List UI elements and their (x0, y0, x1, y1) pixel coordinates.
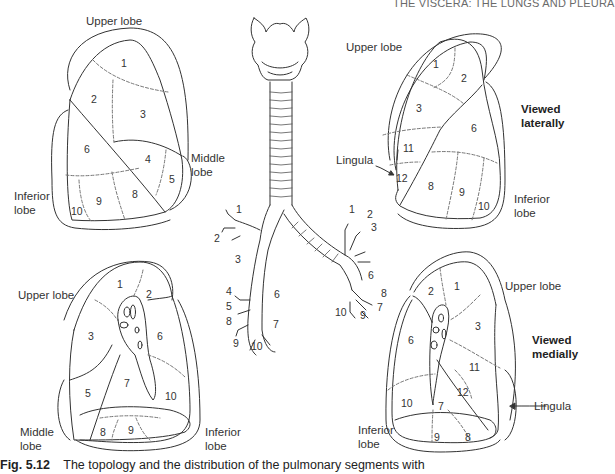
bronchus-r9: 9 (233, 337, 239, 349)
segment-11: 11 (403, 142, 414, 154)
figure-number: Fig. 5.12 (0, 458, 50, 472)
segment-6: 6 (84, 143, 90, 155)
inferior-lobe-label-ll-medial: Inferior lobe (358, 423, 394, 451)
bronchus-r1: 1 (236, 203, 242, 215)
bronchus-r8: 8 (226, 315, 232, 327)
segment-3: 3 (475, 320, 481, 332)
upper-lobe-label-ll-lateral: Upper lobe (346, 40, 402, 54)
segment-2: 2 (461, 72, 467, 84)
segment-12: 12 (396, 172, 408, 184)
inferior-lobe-label-ll-lateral: Inferior lobe (514, 192, 550, 220)
segment-6: 6 (157, 330, 163, 342)
right-lung-medial-drawing (58, 261, 200, 450)
segment-11: 11 (469, 361, 480, 373)
figure-caption-text: The topology and the distribution of the… (63, 458, 424, 472)
segment-1: 1 (121, 57, 127, 69)
segment-3: 3 (140, 108, 146, 120)
segment-9: 9 (96, 195, 102, 207)
bronchial-tree-drawing (222, 18, 372, 355)
figure-caption: Fig. 5.12 The topology and the distribut… (0, 458, 425, 472)
viewed-medially-label: Viewed medially (532, 333, 578, 361)
bronchus-l1: 1 (349, 203, 355, 215)
inferior-lobe-label-rl-lateral: Inferior lobe (14, 189, 50, 217)
segment-9: 9 (434, 431, 440, 443)
bronchus-r4: 4 (226, 285, 232, 297)
upper-lobe-label-ll-medial: Upper lobe (505, 279, 561, 293)
bronchus-r6: 6 (274, 288, 280, 300)
segment-8: 8 (428, 180, 434, 192)
segment-7: 7 (124, 377, 130, 389)
segment-8: 8 (100, 426, 106, 438)
bronchus-l6: 6 (368, 269, 374, 281)
segment-2: 2 (428, 285, 434, 297)
bronchus-l7: 7 (377, 301, 383, 313)
segment-10: 10 (71, 205, 83, 217)
segment-1: 1 (454, 280, 460, 292)
segment-2: 2 (146, 288, 152, 300)
segment-5: 5 (169, 173, 175, 185)
upper-lobe-label-rl-medial: Upper lobe (18, 288, 74, 302)
segment-10: 10 (401, 397, 413, 409)
segment-5: 5 (85, 387, 91, 399)
segment-4: 4 (145, 153, 151, 165)
segment-8: 8 (465, 431, 471, 443)
segment-8: 8 (132, 188, 138, 200)
bronchus-r7: 7 (273, 318, 279, 330)
bronchus-r3: 3 (235, 253, 241, 265)
viewed-laterally-label: Viewed laterally (521, 102, 564, 130)
segment-10: 10 (478, 200, 490, 212)
bronchus-l9: 9 (360, 309, 366, 321)
segment-6: 6 (471, 122, 477, 134)
segment-1: 1 (433, 58, 439, 70)
segment-6: 6 (408, 334, 414, 346)
segment-7: 7 (438, 400, 444, 412)
bronchus-l2: 2 (367, 208, 373, 220)
segment-12: 12 (457, 386, 469, 398)
bronchus-r2: 2 (214, 232, 220, 244)
bronchus-l3: 3 (371, 221, 377, 233)
segment-10: 10 (165, 390, 177, 402)
segment-3: 3 (88, 330, 94, 342)
bronchus-r10: 10 (251, 340, 263, 352)
middle-lobe-label-rl-medial: Middle lobe (20, 425, 54, 453)
inferior-lobe-label-rl-medial: Inferior lobe (205, 425, 241, 453)
segment-1: 1 (117, 278, 123, 290)
lingula-label-ll-lateral: Lingula (336, 153, 373, 167)
segment-3: 3 (416, 102, 422, 114)
upper-lobe-label-rl-lateral: Upper lobe (86, 14, 142, 28)
segment-9: 9 (459, 186, 465, 198)
lingula-label-ll-medial: Lingula (534, 399, 571, 413)
segment-9: 9 (128, 424, 134, 436)
bronchus-r5: 5 (226, 300, 232, 312)
bronchus-l8: 8 (381, 287, 387, 299)
bronchus-l10: 10 (335, 306, 347, 318)
segment-2: 2 (91, 93, 97, 105)
middle-lobe-label-rl-lateral: Middle lobe (191, 151, 225, 179)
